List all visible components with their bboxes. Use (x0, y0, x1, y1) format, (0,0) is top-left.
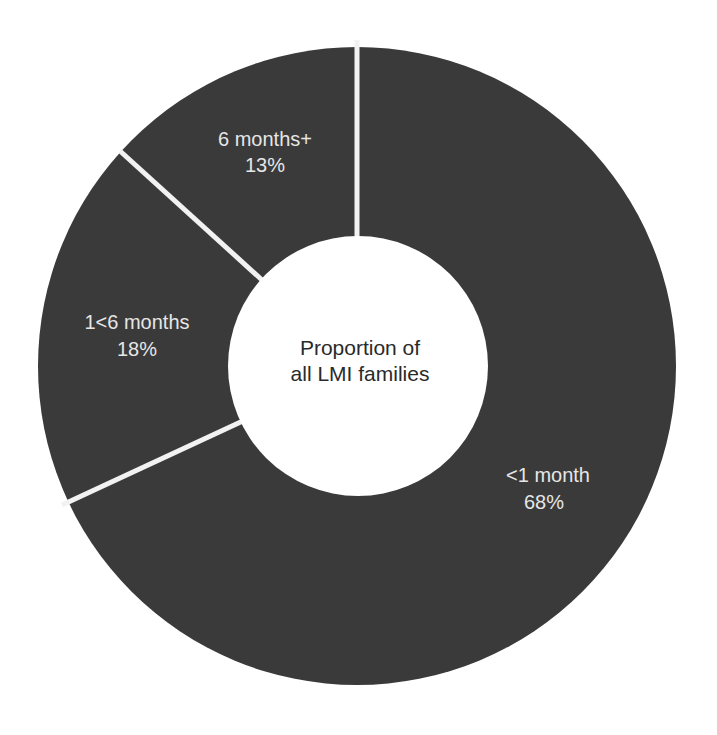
center-label-line-2: all LMI families (291, 362, 430, 385)
slice-label-name: 1<6 months (84, 311, 189, 333)
slice-label-value: 68% (524, 491, 564, 513)
slice-label-value: 13% (245, 154, 285, 176)
center-label-line-1: Proportion of (300, 336, 420, 359)
slice-label-value: 18% (117, 338, 157, 360)
slice-label-name: 6 months+ (218, 128, 312, 150)
slice-label-name: <1 month (506, 464, 590, 486)
donut-chart: 6 months+ 13% 1<6 months 18% <1 month 68… (0, 0, 717, 735)
